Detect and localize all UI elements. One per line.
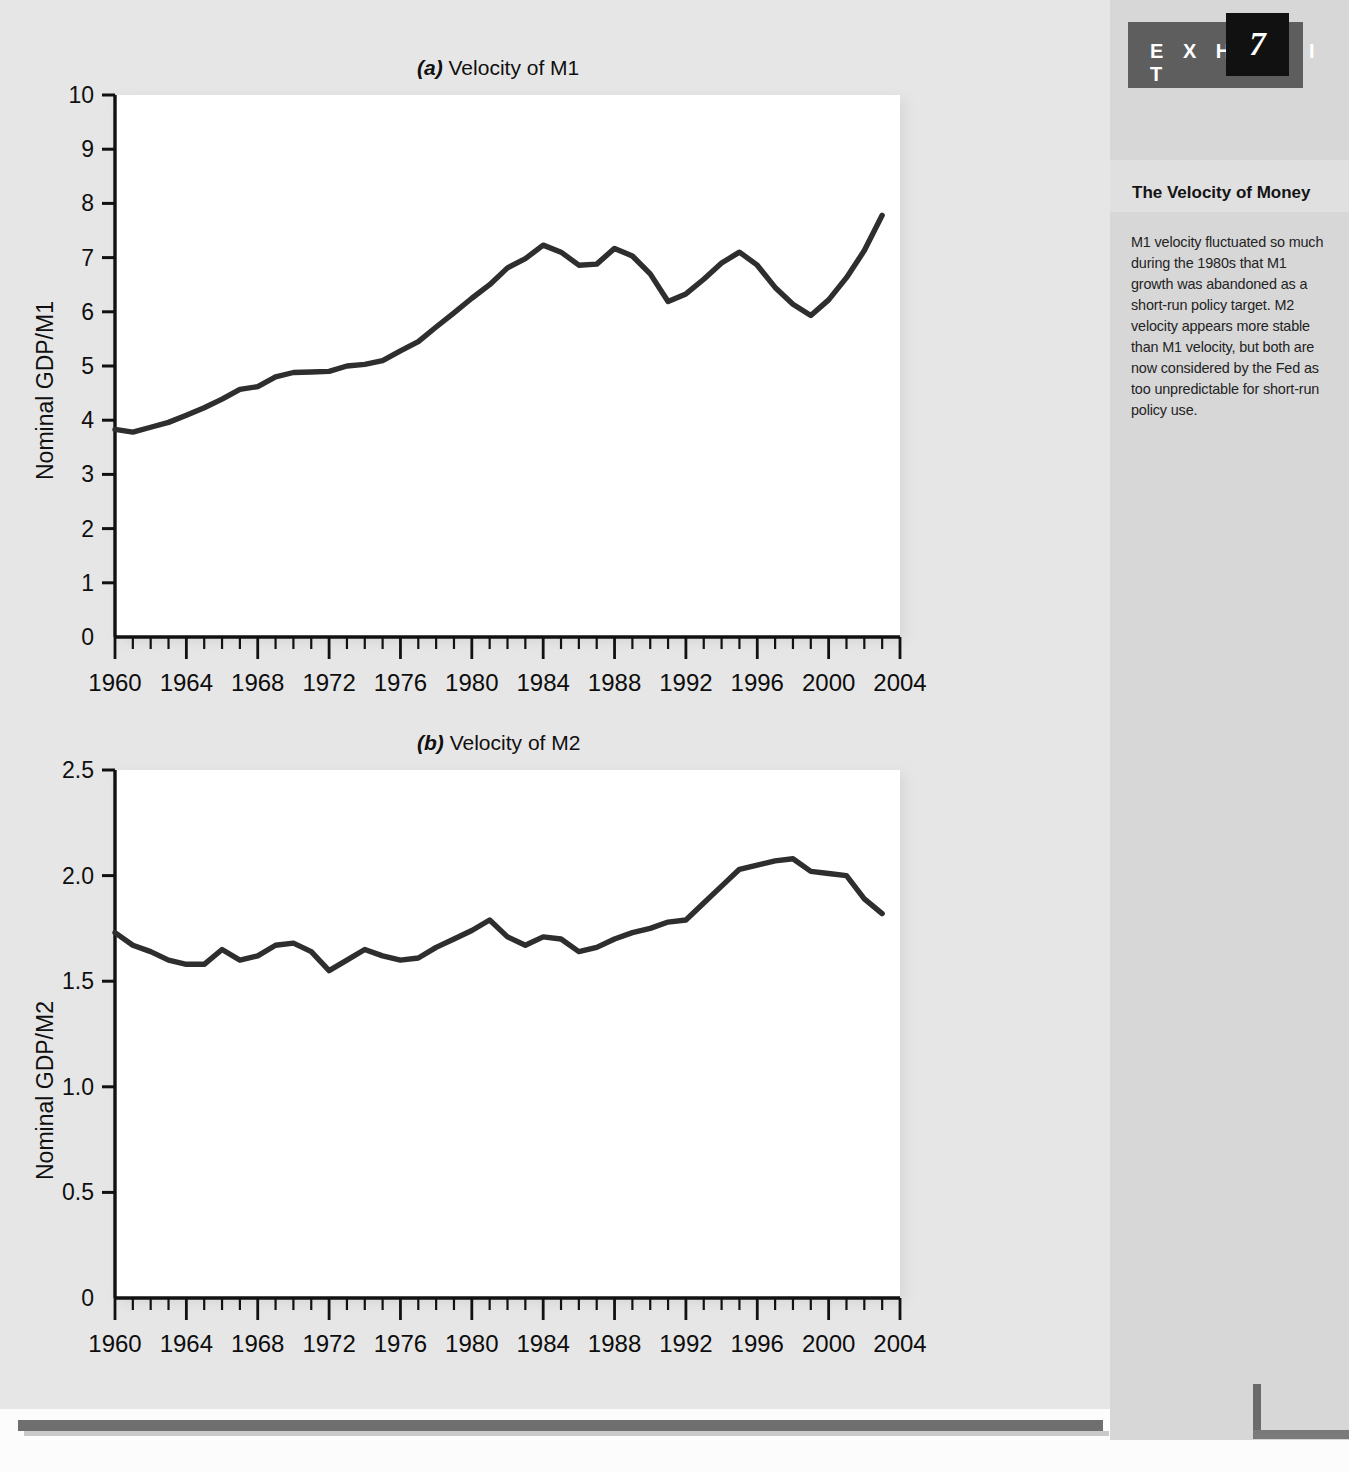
svg-text:1992: 1992 [659, 1330, 712, 1357]
svg-text:1988: 1988 [588, 669, 641, 696]
sidebar-foot-rule-horizontal [1253, 1430, 1349, 1439]
svg-text:1960: 1960 [88, 669, 141, 696]
page-background: (a) Velocity of M1 Nominal GDP/M1 012345… [0, 0, 1349, 1472]
sidebar-heading: The Velocity of Money [1132, 183, 1342, 203]
svg-text:2004: 2004 [873, 1330, 926, 1357]
chart-a-plot: 0123456789101960196419681972197619801984… [0, 0, 1000, 700]
svg-text:1.5: 1.5 [62, 968, 94, 994]
svg-text:1964: 1964 [160, 669, 213, 696]
svg-text:2.5: 2.5 [62, 757, 94, 783]
svg-text:5: 5 [81, 353, 94, 379]
svg-text:1992: 1992 [659, 669, 712, 696]
svg-text:1968: 1968 [231, 669, 284, 696]
svg-text:2: 2 [81, 516, 94, 542]
svg-text:0.5: 0.5 [62, 1179, 94, 1205]
svg-text:7: 7 [81, 245, 94, 271]
svg-text:1980: 1980 [445, 669, 498, 696]
svg-text:1980: 1980 [445, 1330, 498, 1357]
chart-panel-m2: (b) Velocity of M2 Nominal GDP/M2 00.51.… [0, 700, 1000, 1400]
svg-text:2000: 2000 [802, 1330, 855, 1357]
exhibit-number: 7 [1226, 13, 1289, 76]
svg-text:1984: 1984 [516, 1330, 569, 1357]
svg-text:1988: 1988 [588, 1330, 641, 1357]
sidebar-foot-rule [1253, 1384, 1261, 1430]
svg-text:6: 6 [81, 299, 94, 325]
svg-text:1972: 1972 [302, 1330, 355, 1357]
chart-b-plot: 00.51.01.52.02.5196019641968197219761980… [0, 700, 1000, 1400]
svg-text:8: 8 [81, 190, 94, 216]
svg-text:10: 10 [68, 82, 94, 108]
bottom-rule-shadow [24, 1431, 1109, 1436]
svg-text:9: 9 [81, 136, 94, 162]
svg-text:1984: 1984 [516, 669, 569, 696]
svg-text:0: 0 [81, 1285, 94, 1311]
svg-text:1964: 1964 [160, 1330, 213, 1357]
svg-text:2.0: 2.0 [62, 863, 94, 889]
svg-text:1968: 1968 [231, 1330, 284, 1357]
svg-text:2004: 2004 [873, 669, 926, 696]
svg-text:1.0: 1.0 [62, 1074, 94, 1100]
svg-text:1996: 1996 [731, 669, 784, 696]
chart-panel-m1: (a) Velocity of M1 Nominal GDP/M1 012345… [0, 0, 1000, 700]
svg-text:1972: 1972 [302, 669, 355, 696]
svg-text:1976: 1976 [374, 669, 427, 696]
svg-text:1960: 1960 [88, 1330, 141, 1357]
exhibit-sidebar [1110, 0, 1349, 1440]
sidebar-body-text: M1 velocity fluctuated so much during th… [1131, 232, 1331, 421]
svg-text:1996: 1996 [731, 1330, 784, 1357]
bottom-rule [18, 1420, 1103, 1431]
svg-text:1: 1 [81, 570, 94, 596]
svg-text:3: 3 [81, 461, 94, 487]
svg-text:4: 4 [81, 407, 94, 433]
svg-text:0: 0 [81, 624, 94, 650]
svg-text:1976: 1976 [374, 1330, 427, 1357]
svg-text:2000: 2000 [802, 669, 855, 696]
